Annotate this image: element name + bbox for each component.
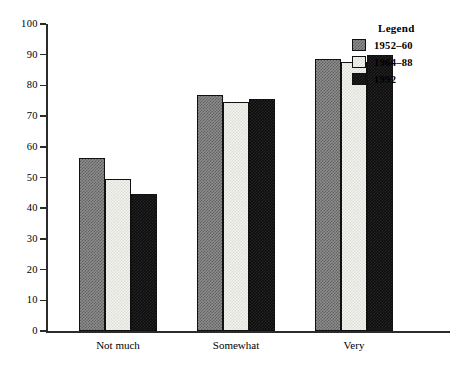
bar xyxy=(131,194,157,331)
bar xyxy=(197,95,223,331)
y-axis-tick-label: 20 xyxy=(4,264,38,275)
legend: Legend 1952–601964–881992 xyxy=(352,22,456,89)
x-axis-line xyxy=(46,331,450,333)
legend-entry-label: 1952–60 xyxy=(374,40,413,51)
y-axis-tick xyxy=(40,269,46,271)
x-axis-category-label: Somewhat xyxy=(213,339,259,351)
y-axis-tick-label: 80 xyxy=(4,80,38,91)
bar xyxy=(223,102,249,331)
legend-title: Legend xyxy=(378,22,456,34)
legend-swatch-icon xyxy=(352,73,366,85)
y-axis-tick-label: 0 xyxy=(4,326,38,337)
legend-entries: 1952–601964–881992 xyxy=(352,38,456,86)
y-axis-tick xyxy=(40,23,46,25)
bar-group xyxy=(79,24,157,331)
bar xyxy=(249,99,275,331)
y-axis-tick-label: 100 xyxy=(4,19,38,30)
y-axis-tick xyxy=(40,146,46,148)
y-axis-tick xyxy=(40,85,46,87)
x-axis-category-label: Very xyxy=(344,339,365,351)
x-axis-category-label: Not much xyxy=(96,339,140,351)
y-axis-tick xyxy=(40,54,46,56)
y-axis-tick-label: 50 xyxy=(4,172,38,183)
y-axis-tick-label: 90 xyxy=(4,49,38,60)
y-axis-tick-label: 70 xyxy=(4,111,38,122)
y-axis-tick xyxy=(40,238,46,240)
legend-entry: 1952–60 xyxy=(352,38,456,52)
bar xyxy=(315,59,341,331)
y-axis-tick xyxy=(40,207,46,209)
y-axis-tick xyxy=(40,300,46,302)
bar xyxy=(105,179,131,331)
y-axis-tick-label: 10 xyxy=(4,295,38,306)
y-axis-tick-label: 60 xyxy=(4,142,38,153)
y-axis-tick-label: 40 xyxy=(4,203,38,214)
legend-swatch-icon xyxy=(352,39,366,51)
bar xyxy=(341,62,367,331)
legend-entry-label: 1964–88 xyxy=(374,57,413,68)
y-axis-tick xyxy=(40,177,46,179)
bar-group xyxy=(197,24,275,331)
legend-entry: 1992 xyxy=(352,72,456,86)
legend-entry: 1964–88 xyxy=(352,55,456,69)
y-axis-tick xyxy=(40,115,46,117)
legend-swatch-icon xyxy=(352,56,366,68)
y-axis-tick xyxy=(40,330,46,332)
bar xyxy=(367,55,393,331)
y-axis-tick-label: 30 xyxy=(4,234,38,245)
legend-entry-label: 1992 xyxy=(374,74,396,85)
bar xyxy=(79,158,105,331)
bar-chart: 0102030405060708090100 Not muchSomewhatV… xyxy=(0,0,458,368)
